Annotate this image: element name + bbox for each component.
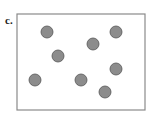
particles-group (29, 26, 122, 98)
particle-circle (110, 26, 122, 38)
particle-circle (110, 63, 122, 75)
container-box (17, 14, 145, 110)
particle-circle (41, 26, 53, 38)
particle-circle (52, 50, 64, 62)
particle-diagram (0, 0, 150, 114)
particle-circle (99, 86, 111, 98)
particle-circle (29, 74, 41, 86)
particle-circle (75, 74, 87, 86)
particle-circle (87, 38, 99, 50)
